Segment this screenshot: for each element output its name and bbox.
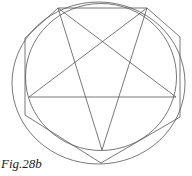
inner-circle — [26, 4, 177, 151]
hexagon — [25, 8, 180, 163]
pentagram-diagram — [0, 0, 192, 176]
figure-caption: Fig.28b — [1, 156, 42, 172]
pentagram — [29, 8, 176, 150]
